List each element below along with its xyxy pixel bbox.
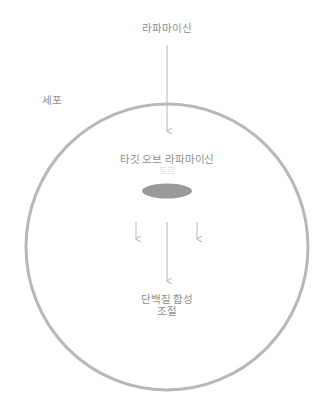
- tor-complex-ellipse: [142, 184, 192, 199]
- protein-synthesis-label: 단백질 합성 조절: [141, 293, 193, 317]
- cell-label: 세포: [42, 94, 62, 106]
- tor-complex-sublabel: 토르: [159, 166, 175, 176]
- diagram-graphics: [0, 0, 332, 414]
- tor-complex-label: 타깃 오브 라파마이신: [120, 153, 215, 165]
- diagram-canvas: 라파마이신 세포 타깃 오브 라파마이신 토르 단백질 합성 조절: [0, 0, 332, 414]
- protein-synthesis-label-line1: 단백질 합성: [141, 293, 193, 305]
- rapamycin-label: 라파마이신: [142, 22, 192, 34]
- protein-synthesis-label-line2: 조절: [141, 305, 193, 317]
